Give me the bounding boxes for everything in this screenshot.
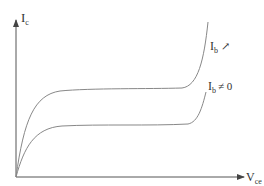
curve-upper — [16, 22, 208, 177]
y-axis-label: Ic — [21, 10, 29, 27]
x-axis-label: Vce — [246, 170, 262, 186]
curve-lower-label: Ib≠ 0 — [208, 79, 233, 95]
curve-upper-label: Ib↗ — [210, 39, 230, 55]
curve-lower — [16, 92, 206, 177]
characteristic-diagram: Ic Vce Ib↗ Ib≠ 0 — [0, 0, 264, 186]
